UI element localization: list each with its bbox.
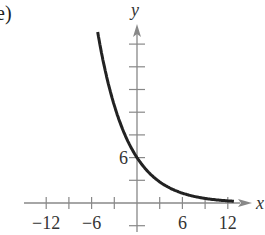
x-tick-label: −6 [82, 213, 101, 233]
x-tick-label: −12 [32, 213, 60, 233]
chart: x y −12−66126 [0, 0, 265, 235]
y-tick-label: 6 [119, 148, 128, 168]
x-arrow-icon [238, 199, 252, 207]
x-tick-label: 12 [219, 213, 237, 233]
tick-labels: −12−66126 [32, 148, 237, 233]
y-axis-label: y [129, 0, 139, 20]
x-tick-label: 6 [178, 213, 187, 233]
x-axis-label: x [255, 193, 264, 213]
data-curve [98, 32, 234, 201]
